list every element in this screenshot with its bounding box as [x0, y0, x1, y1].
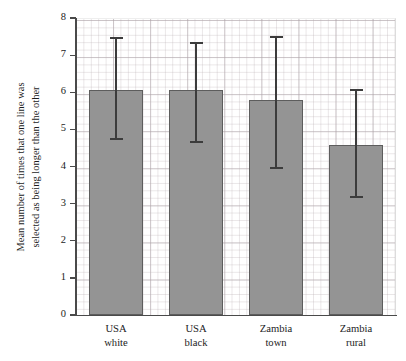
error-bar-line [195, 43, 197, 142]
y-axis-tick [70, 277, 76, 278]
x-axis-tick-label-line: USA [76, 322, 156, 336]
x-axis-tick-label-line: Zambia [236, 322, 316, 336]
y-axis-tick [70, 55, 76, 56]
bar-chart-figure: Mean number of times that one line was s… [0, 0, 406, 361]
error-bar-cap-upper [190, 42, 203, 44]
error-bar-cap-upper [110, 37, 123, 39]
error-bar-cap-lower [270, 167, 283, 169]
y-axis-tick-label: 5 [26, 122, 66, 133]
error-bar-cap-upper [270, 36, 283, 38]
error-bar-cap-upper [350, 89, 363, 91]
y-axis-tick-label: 6 [26, 85, 66, 96]
y-axis-tick [70, 203, 76, 204]
y-axis-tick-label: 7 [26, 48, 66, 59]
x-axis-tick-label: Zambiatown [236, 322, 316, 349]
x-axis-tick-label-line: white [76, 336, 156, 350]
y-axis-tick [70, 240, 76, 241]
y-axis-tick-label: 3 [26, 197, 66, 208]
y-axis-tick [70, 166, 76, 167]
error-bar-cap-lower [190, 141, 203, 143]
x-axis-tick-label: Zambiarural [316, 322, 396, 349]
error-bar-line [355, 90, 357, 196]
x-axis-tick-label: USAblack [156, 322, 236, 349]
x-axis-tick-label-line: USA [156, 322, 236, 336]
error-bar-cap-lower [110, 138, 123, 140]
y-axis-tick [70, 92, 76, 93]
y-axis-tick-label: 2 [26, 234, 66, 245]
y-axis-tick-label: 1 [26, 271, 66, 282]
x-axis-tick-label-line: town [236, 336, 316, 350]
y-axis-tick-label: 0 [26, 308, 66, 319]
x-axis-tick-label-line: rural [316, 336, 396, 350]
error-bar-line [115, 38, 117, 139]
error-bar-line [275, 37, 277, 168]
y-axis-tick-label: 4 [26, 160, 66, 171]
error-bar-cap-lower [350, 196, 363, 198]
y-axis-tick [70, 17, 76, 18]
y-axis-tick [70, 129, 76, 130]
y-axis-tick [70, 314, 76, 315]
x-axis-tick-label: USAwhite [76, 322, 156, 349]
x-axis-tick-label-line: black [156, 336, 236, 350]
y-axis-tick-label: 8 [26, 11, 66, 22]
x-axis-tick-label-line: Zambia [316, 322, 396, 336]
